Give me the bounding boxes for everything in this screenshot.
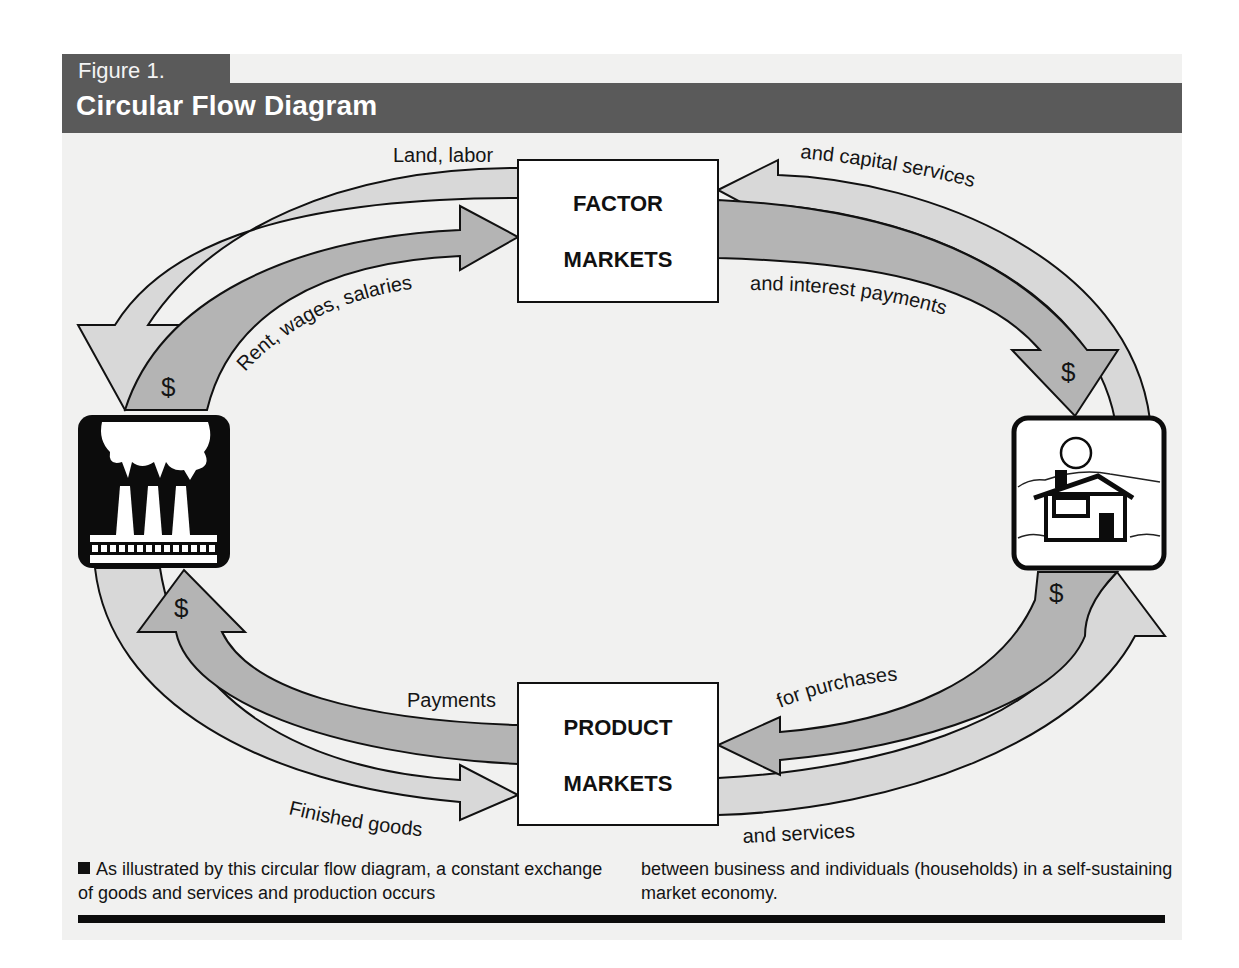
product-markets-line1: PRODUCT — [564, 715, 673, 740]
factor-markets-line1: FACTOR — [573, 191, 663, 216]
dollar-sign-top-left: $ — [161, 372, 176, 402]
factor-markets-box: FACTOR MARKETS — [518, 160, 718, 302]
label-land-labor: Land, labor — [393, 144, 493, 166]
label-and-services: and services — [742, 819, 855, 847]
arrow-payments-to-business — [138, 570, 518, 764]
factory-icon — [78, 415, 230, 568]
dollar-sign-top-right: $ — [1061, 357, 1076, 387]
dollar-sign-bottom-left: $ — [174, 593, 189, 623]
circular-flow-diagram: FACTOR MARKETS PRODUCT MARKETS — [0, 0, 1239, 968]
caption-right: between business and individuals (househ… — [641, 857, 1181, 905]
product-markets-line2: MARKETS — [564, 771, 673, 796]
house-icon — [1014, 418, 1164, 568]
label-payments: Payments — [407, 689, 496, 711]
label-finished-goods: Finished goods — [287, 797, 423, 841]
bullet-square-icon — [78, 862, 90, 874]
label-for-purchases: for purchases — [773, 663, 897, 712]
factor-markets-line2: MARKETS — [564, 247, 673, 272]
dollar-sign-bottom-right: $ — [1049, 578, 1064, 608]
bottom-rule — [78, 915, 1165, 923]
caption-left-text: As illustrated by this circular flow dia… — [78, 859, 602, 903]
product-markets-box: PRODUCT MARKETS — [518, 683, 718, 825]
caption-left: As illustrated by this circular flow dia… — [78, 857, 618, 905]
